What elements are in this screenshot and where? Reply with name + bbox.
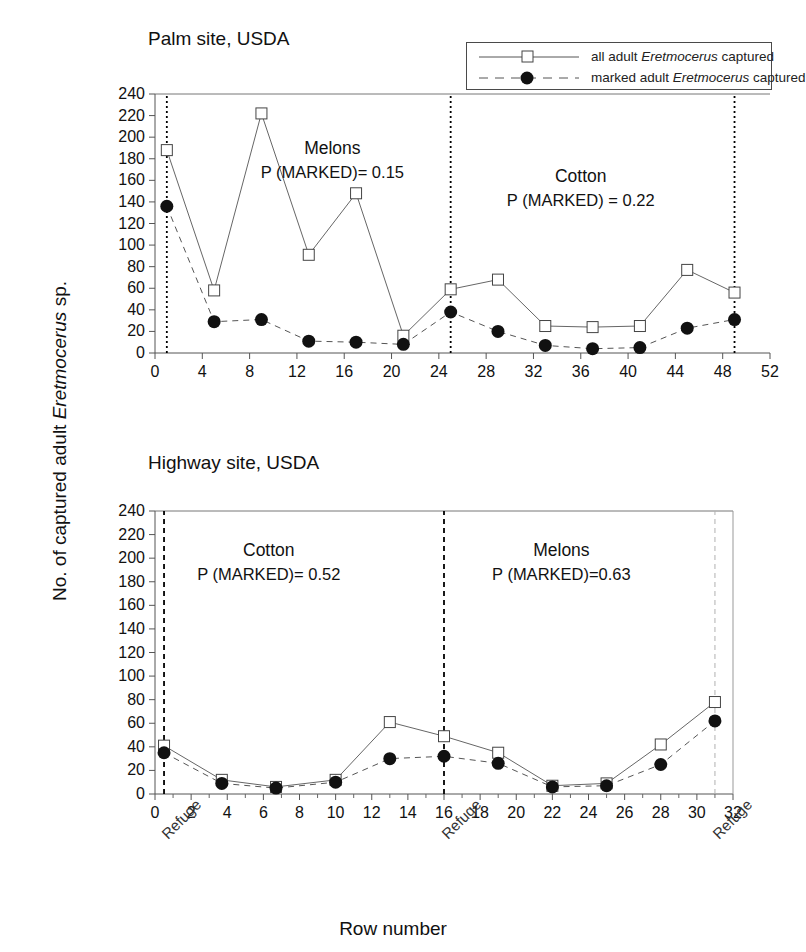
data-point-all xyxy=(256,108,267,119)
legend-swatch-marked-icon xyxy=(475,67,583,89)
x-tick-label: 20 xyxy=(499,804,533,822)
data-point-marked xyxy=(215,777,228,790)
legend-label-marked: marked adult Eretmocerus captured xyxy=(591,70,806,85)
data-point-marked xyxy=(208,315,221,328)
x-tick-label: 52 xyxy=(753,363,787,381)
y-tick-label: 80 xyxy=(103,691,145,709)
y-tick-label: 20 xyxy=(103,322,145,340)
data-point-marked xyxy=(491,325,504,338)
panel-title-palm: Palm site, USDA xyxy=(148,28,289,50)
data-point-all xyxy=(682,264,693,275)
y-tick-label: 0 xyxy=(103,344,145,362)
x-tick-label: 10 xyxy=(319,804,353,822)
chart-highway-site: 0204060801001201401601802002202400246810… xyxy=(143,505,743,816)
data-point-marked xyxy=(270,782,283,795)
y-tick-label: 180 xyxy=(103,573,145,591)
data-point-all xyxy=(161,145,172,156)
data-point-all xyxy=(493,747,504,758)
data-point-marked xyxy=(255,313,268,326)
y-tick-label: 120 xyxy=(103,215,145,233)
x-tick-label: 28 xyxy=(644,804,678,822)
legend-label-all-genus: Eretmocerus xyxy=(641,49,718,64)
y-tick-label: 160 xyxy=(103,596,145,614)
x-axis-label: Row number xyxy=(0,918,786,940)
data-point-marked xyxy=(383,752,396,765)
x-tick-label: 24 xyxy=(572,804,606,822)
data-point-all xyxy=(709,697,720,708)
y-tick-label: 140 xyxy=(103,193,145,211)
legend-label-all-suffix: captured xyxy=(718,49,774,64)
data-point-marked xyxy=(438,750,451,763)
data-point-all xyxy=(445,284,456,295)
data-point-marked xyxy=(492,757,505,770)
y-tick-label: 80 xyxy=(103,258,145,276)
data-point-marked xyxy=(728,313,741,326)
y-tick-label: 60 xyxy=(103,714,145,732)
data-point-all xyxy=(492,274,503,285)
data-point-marked xyxy=(302,335,315,348)
y-tick-label: 180 xyxy=(103,150,145,168)
data-point-all xyxy=(351,188,362,199)
x-tick-label: 12 xyxy=(280,363,314,381)
x-tick-label: 26 xyxy=(608,804,642,822)
data-point-all xyxy=(655,739,666,750)
x-tick-label: 4 xyxy=(210,804,244,822)
legend-label-marked-genus: Eretmocerus xyxy=(673,70,750,85)
y-tick-label: 0 xyxy=(103,785,145,803)
crop-annotation-name: Melons xyxy=(492,538,631,563)
y-tick-label: 240 xyxy=(103,85,145,103)
legend-label-all: all adult Eretmocerus captured xyxy=(591,49,774,64)
panel-title-highway: Highway site, USDA xyxy=(148,452,319,474)
chart-palm-site: 0204060801001201401601802002202400481216… xyxy=(143,88,780,375)
crop-annotation-pmarked: P (MARKED) = 0.22 xyxy=(507,192,655,210)
crop-annotation-pmarked: P (MARKED)=0.63 xyxy=(492,566,631,584)
y-tick-label: 240 xyxy=(103,502,145,520)
x-tick-label: 6 xyxy=(246,804,280,822)
x-tick-label: 40 xyxy=(611,363,645,381)
x-tick-label: 4 xyxy=(185,363,219,381)
data-point-marked xyxy=(444,305,457,318)
crop-annotation-name: Cotton xyxy=(197,538,340,563)
y-axis-label-genus: Eretmocerus xyxy=(49,312,70,420)
x-tick-label: 24 xyxy=(422,363,456,381)
x-tick-label: 30 xyxy=(680,804,714,822)
data-point-all xyxy=(634,321,645,332)
data-point-marked xyxy=(600,779,613,792)
data-point-marked xyxy=(539,339,552,352)
data-point-all xyxy=(729,287,740,298)
crop-annotation: MelonsP (MARKED)= 0.15 xyxy=(261,136,404,185)
data-point-marked xyxy=(160,200,173,213)
x-tick-label: 20 xyxy=(375,363,409,381)
legend-label-all-prefix: all adult xyxy=(591,49,641,64)
y-tick-label: 20 xyxy=(103,761,145,779)
x-tick-label: 14 xyxy=(391,804,425,822)
y-tick-label: 40 xyxy=(103,738,145,756)
plot-area-palm xyxy=(143,88,780,375)
series-line-all xyxy=(164,702,715,787)
data-point-all xyxy=(587,322,598,333)
y-tick-label: 200 xyxy=(103,549,145,567)
y-tick-label: 100 xyxy=(103,667,145,685)
crop-annotation-name: Melons xyxy=(261,136,404,161)
data-point-marked xyxy=(158,746,171,759)
legend-label-marked-suffix: captured xyxy=(749,70,805,85)
y-axis-label: No. of captured adult Eretmocerus sp. xyxy=(49,231,71,651)
crop-annotation-pmarked: P (MARKED)= 0.52 xyxy=(197,566,340,584)
y-axis-label-prefix: No. of captured adult xyxy=(49,419,70,601)
legend-label-marked-prefix: marked adult xyxy=(591,70,673,85)
data-point-all xyxy=(540,321,551,332)
crop-annotation: CottonP (MARKED)= 0.52 xyxy=(197,538,340,587)
crop-annotation-name: Cotton xyxy=(507,164,655,189)
data-point-marked xyxy=(681,322,694,335)
data-point-marked xyxy=(329,776,342,789)
data-point-all xyxy=(209,285,220,296)
data-point-all xyxy=(384,717,395,728)
x-tick-label: 0 xyxy=(138,363,172,381)
x-tick-label: 16 xyxy=(327,363,361,381)
x-tick-label: 32 xyxy=(516,363,550,381)
x-tick-label: 36 xyxy=(564,363,598,381)
y-tick-label: 220 xyxy=(103,107,145,125)
data-point-marked xyxy=(654,758,667,771)
y-tick-label: 60 xyxy=(103,279,145,297)
crop-annotation: CottonP (MARKED) = 0.22 xyxy=(507,164,655,213)
